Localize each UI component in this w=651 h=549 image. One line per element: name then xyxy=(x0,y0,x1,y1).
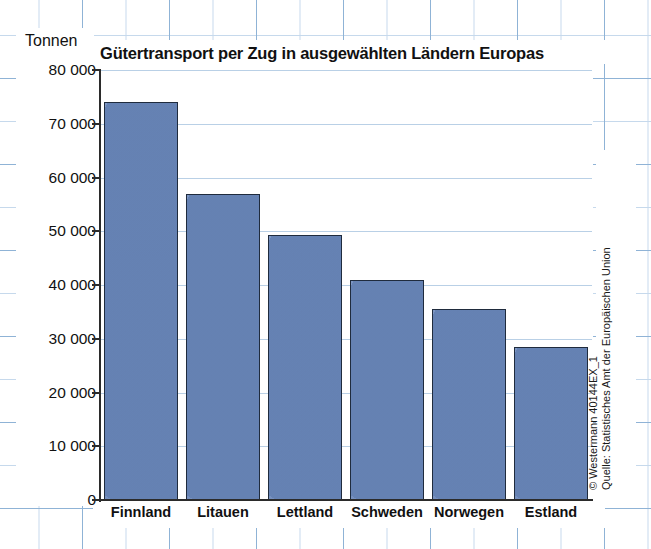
bar-texture xyxy=(515,348,587,499)
category-label: Litauen xyxy=(197,504,249,520)
bar xyxy=(104,102,178,500)
bar xyxy=(350,280,424,500)
bar xyxy=(514,347,588,500)
x-axis-category-labels: FinnlandLitauenLettlandSchwedenNorwegenE… xyxy=(100,504,592,528)
bar xyxy=(432,309,506,500)
y-axis-tick-labels: 010 00020 00030 00040 00050 00060 00070 … xyxy=(12,0,96,549)
category-label: Schweden xyxy=(351,504,423,520)
y-axis-tick-label: 80 000 xyxy=(49,61,96,79)
bar xyxy=(186,194,260,500)
y-axis-tick-label: 30 000 xyxy=(49,330,96,348)
x-axis-line xyxy=(99,499,593,501)
y-axis-tick-label: 60 000 xyxy=(49,169,96,187)
y-axis-tick-label: 10 000 xyxy=(49,437,96,455)
bar-texture xyxy=(269,236,341,499)
copyright-text: © Westermann 40144EX_1 xyxy=(587,356,599,490)
gridline xyxy=(100,70,592,71)
category-label: Norwegen xyxy=(434,504,504,520)
y-axis-tick-label: 70 000 xyxy=(49,115,96,133)
bar-texture xyxy=(187,195,259,499)
y-axis-line xyxy=(99,69,101,502)
category-label: Estland xyxy=(525,504,577,520)
source-attribution: © Westermann 40144EX_1 Quelle: Statistis… xyxy=(597,180,633,490)
chart-page: Tonnen Gütertransport per Zug in ausgewä… xyxy=(0,0,651,549)
bar-texture xyxy=(351,281,423,499)
plot-area xyxy=(100,70,592,500)
y-axis-tick-label: 40 000 xyxy=(49,276,96,294)
category-label: Lettland xyxy=(277,504,333,520)
y-axis-tick-label: 50 000 xyxy=(49,222,96,240)
y-axis-tick-label: 20 000 xyxy=(49,384,96,402)
bar-texture xyxy=(105,103,177,499)
category-label: Finnland xyxy=(111,504,171,520)
source-credit-text: Quelle: Statistisches Amt der Europäisch… xyxy=(600,247,612,490)
chart-title: Gütertransport per Zug in ausgewählten L… xyxy=(100,44,544,63)
bar xyxy=(268,235,342,500)
bar-texture xyxy=(433,310,505,499)
